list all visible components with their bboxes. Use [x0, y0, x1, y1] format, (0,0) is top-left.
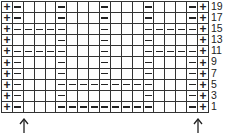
purl-symbol-icon — [100, 35, 110, 45]
blank-cell — [111, 91, 121, 101]
chart-cell — [176, 35, 187, 46]
chart-cell — [78, 46, 89, 57]
chart-cell — [122, 2, 133, 13]
chart-cell — [78, 69, 89, 80]
blank-cell — [78, 69, 88, 79]
chart-cell — [56, 57, 67, 68]
blank-cell — [78, 2, 88, 12]
blank-cell — [122, 91, 132, 101]
chart-cell — [111, 35, 122, 46]
blank-cell — [122, 35, 132, 45]
up-arrow-icon — [193, 118, 203, 133]
chart-cell — [35, 35, 46, 46]
chart-cell — [46, 91, 57, 102]
chart-cell — [187, 35, 198, 46]
chart-cell — [24, 13, 35, 24]
purl-symbol-icon — [187, 57, 197, 67]
blank-cell — [176, 13, 186, 23]
chart-cell — [144, 2, 155, 13]
purl-symbol-icon — [122, 80, 132, 90]
purl-symbol-icon — [13, 102, 23, 112]
chart-cell — [176, 69, 187, 80]
blank-cell — [165, 35, 175, 45]
purl-symbol-icon — [35, 24, 45, 34]
purl-symbol-icon — [13, 13, 23, 23]
chart-cell — [89, 57, 100, 68]
blank-cell — [176, 69, 186, 79]
purl-symbol-icon — [187, 46, 197, 56]
chart-cell — [24, 91, 35, 102]
blank-cell — [165, 102, 175, 112]
blank-cell — [78, 24, 88, 34]
chart-cell — [187, 46, 198, 57]
blank-cell — [133, 57, 143, 67]
purl-symbol-icon — [56, 2, 66, 12]
purl-symbol-icon — [144, 69, 154, 79]
purl-symbol-icon — [56, 24, 66, 34]
purl-symbol-icon — [176, 24, 186, 34]
chart-cell — [35, 102, 46, 113]
purl-symbol-icon — [144, 2, 154, 12]
blank-cell — [154, 69, 164, 79]
purl-symbol-icon — [100, 80, 110, 90]
purl-symbol-icon — [67, 102, 77, 112]
chart-cell — [24, 102, 35, 113]
blank-cell — [89, 46, 99, 56]
chart-cell — [35, 69, 46, 80]
chart-cell — [67, 13, 78, 24]
chart-cell — [144, 91, 155, 102]
blank-cell — [122, 24, 132, 34]
chart-cell — [165, 102, 176, 113]
blank-cell — [46, 13, 56, 23]
chart-cell — [111, 69, 122, 80]
blank-cell — [154, 2, 164, 12]
chart-cell — [133, 91, 144, 102]
chart-cell — [165, 80, 176, 91]
blank-cell — [46, 91, 56, 101]
purl-symbol-icon — [133, 102, 143, 112]
blank-cell — [111, 13, 121, 23]
blank-cell — [24, 80, 34, 90]
purl-symbol-icon — [89, 102, 99, 112]
chart-cell — [78, 102, 89, 113]
purl-symbol-icon — [67, 80, 77, 90]
blank-cell — [176, 80, 186, 90]
purl-symbol-icon — [56, 91, 66, 101]
chart-cell — [133, 2, 144, 13]
blank-cell — [154, 57, 164, 67]
chart-cell — [67, 57, 78, 68]
blank-cell — [24, 35, 34, 45]
blank-cell — [35, 2, 45, 12]
blank-cell — [154, 80, 164, 90]
chart-cell — [100, 35, 111, 46]
chart-cell — [46, 102, 57, 113]
chart-cell — [111, 91, 122, 102]
blank-cell — [35, 57, 45, 67]
chart-cell — [144, 57, 155, 68]
blank-cell — [176, 2, 186, 12]
chart-cell — [78, 57, 89, 68]
chart-cell — [111, 2, 122, 13]
blank-cell — [165, 91, 175, 101]
chart-cell — [46, 24, 57, 35]
purl-symbol-icon — [56, 69, 66, 79]
purl-symbol-icon — [100, 69, 110, 79]
purl-symbol-icon — [144, 102, 154, 112]
chart-cell — [56, 24, 67, 35]
chart-cell — [89, 35, 100, 46]
chart-cell — [35, 46, 46, 57]
chart-cell — [187, 69, 198, 80]
blank-cell — [67, 91, 77, 101]
blank-cell — [35, 69, 45, 79]
chart-cell — [154, 102, 165, 113]
blank-cell — [176, 91, 186, 101]
chart-cell — [78, 35, 89, 46]
blank-cell — [133, 2, 143, 12]
chart-cell — [24, 69, 35, 80]
blank-cell — [35, 35, 45, 45]
row-label: 1 — [211, 101, 223, 112]
chart-cell — [13, 2, 24, 13]
blank-cell — [89, 69, 99, 79]
chart-cell — [133, 13, 144, 24]
chart-cell — [133, 80, 144, 91]
